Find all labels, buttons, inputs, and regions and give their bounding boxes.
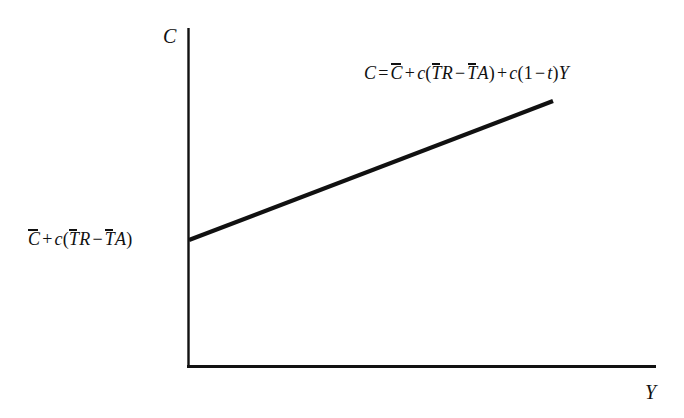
equation-mpc-2: c xyxy=(509,63,517,83)
intercept-annotation: C+c(TR−TA) xyxy=(28,230,132,248)
intercept-c-bar: C xyxy=(28,230,40,248)
equation-c-bar: C xyxy=(391,64,403,82)
consumption-function-figure: C Y C=C+c(TR−TA)+c(1−t)Y C+c(TR−TA) xyxy=(0,0,684,418)
equation-ta-t-bar: T xyxy=(467,64,477,82)
intercept-minus: − xyxy=(90,229,104,249)
equation-annotation: C=C+c(TR−TA)+c(1−t)Y xyxy=(364,64,569,82)
equation-minus-1: − xyxy=(453,63,467,83)
intercept-mpc: c xyxy=(55,229,63,249)
equation-income: Y xyxy=(559,63,569,83)
equation-minus-2: − xyxy=(533,63,547,83)
consumption-function-line xyxy=(189,101,553,240)
intercept-close-paren: ) xyxy=(126,229,132,249)
intercept-tr-t-bar: T xyxy=(69,230,79,248)
equation-one: 1 xyxy=(524,63,533,83)
intercept-ta-t-bar: T xyxy=(105,230,115,248)
equation-tr-t-bar: T xyxy=(432,64,442,82)
equation-plus-1: + xyxy=(403,63,417,83)
intercept-plus: + xyxy=(40,229,54,249)
vertical-axis-label: C xyxy=(163,26,176,46)
horizontal-axis-label: Y xyxy=(645,382,656,402)
equation-lhs: C xyxy=(364,63,376,83)
equation-plus-2: + xyxy=(495,63,509,83)
equation-ta-a: A xyxy=(478,63,489,83)
intercept-tr-r: R xyxy=(79,229,90,249)
equation-tr-r: R xyxy=(442,63,453,83)
figure-canvas xyxy=(0,0,684,418)
intercept-ta-a: A xyxy=(115,229,126,249)
equation-equals: = xyxy=(376,63,390,83)
